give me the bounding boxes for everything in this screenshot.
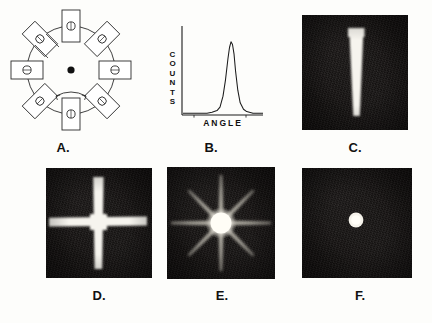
- panel-e-photograph: [167, 167, 275, 279]
- panel-f-photograph: [302, 168, 412, 278]
- panel-label-a: A.: [43, 140, 83, 155]
- panel-label-b: B.: [191, 140, 231, 155]
- cross-phantom-signal: [46, 168, 152, 278]
- chart-series-line: [183, 42, 263, 113]
- detector-module: [62, 10, 80, 42]
- detector-module: [84, 83, 119, 118]
- panel-d-photograph: [46, 168, 152, 278]
- detector-module: [84, 21, 119, 56]
- detector-module: [11, 61, 43, 79]
- chart-axes: [182, 26, 263, 115]
- figure-container: A. C O U N T S ANGLE B.: [0, 0, 432, 323]
- point-source-signal: [302, 168, 412, 278]
- panel-a-schematic: [8, 8, 158, 138]
- y-axis-label: C O U N T S: [167, 50, 178, 106]
- star-artifact-signal: [167, 167, 275, 279]
- detector-module: [22, 21, 57, 56]
- detector-module: [62, 98, 80, 130]
- detector-module: [22, 83, 57, 118]
- bar-phantom-signal: [302, 15, 408, 130]
- x-axis-label: ANGLE: [182, 118, 264, 128]
- point-source-marker: [67, 66, 74, 73]
- panel-label-e: E.: [202, 288, 242, 303]
- panel-label-f: F.: [340, 288, 380, 303]
- panel-label-d: D.: [79, 288, 119, 303]
- panel-b-chart: C O U N T S ANGLE: [160, 14, 265, 138]
- detector-module: [99, 61, 131, 79]
- panel-label-c: C.: [335, 140, 375, 155]
- panel-c-photograph: [302, 15, 408, 130]
- source-core-bright: [211, 213, 232, 234]
